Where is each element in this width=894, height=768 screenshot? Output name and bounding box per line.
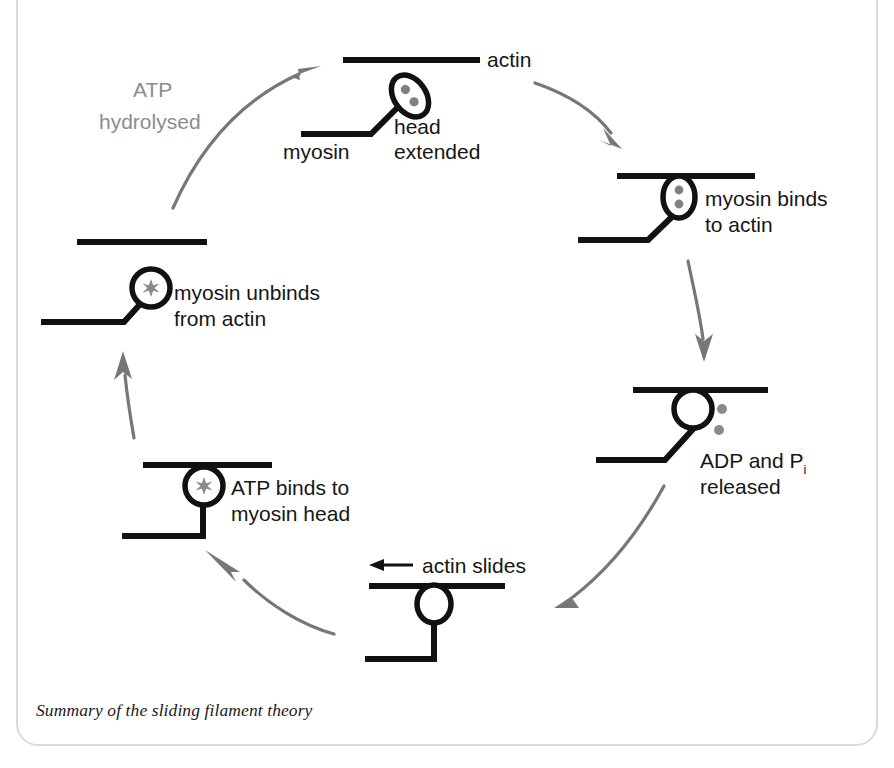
actin-slides-arrow (369, 559, 413, 571)
step-actin-slides: actin slides (365, 554, 526, 659)
cycle-arrow-5-shaft (125, 375, 134, 438)
label-actin-slides: actin slides (422, 554, 526, 577)
label-myosin: myosin (283, 140, 350, 163)
cycle-arrow-4-shaft (244, 580, 334, 634)
step-adp-pi-released: ADP and Pi released (596, 390, 807, 498)
released-adp-particle (717, 404, 727, 414)
label-head: head (394, 115, 441, 138)
cycle-arrow-slides-to-atp-binds (205, 550, 334, 634)
label-myosin-binds-line2: to actin (705, 213, 773, 236)
label-atp-binds-line1: ATP binds to (231, 476, 349, 499)
actin-slides-arrow-head (369, 559, 384, 571)
sliding-filament-cycle-diagram: actin myosin head extended myosin binds … (0, 0, 894, 768)
label-atp-hydrolysed-line2: hydrolysed (99, 110, 201, 133)
figure-caption: Summary of the sliding filament theory (36, 700, 312, 721)
cycle-arrow-2-shaft (688, 261, 703, 339)
myosin-tail-step5 (122, 503, 203, 536)
cycle-arrow-released-to-slides (554, 486, 664, 608)
step-head-extended: actin myosin head extended (283, 48, 531, 163)
label-extended: extended (394, 140, 480, 163)
cycle-arrow-3-shaft (573, 486, 664, 597)
nucleotide-dot-a-step2 (675, 186, 684, 195)
cycle-arrow-binds-to-released (688, 261, 713, 362)
myosin-tail-step6 (41, 301, 143, 322)
myosin-tail-step1 (301, 105, 400, 134)
cycle-arrow-4-head (205, 550, 240, 582)
figure-panel: actin myosin head extended myosin binds … (0, 0, 894, 768)
cycle-arrow-5-head (114, 351, 132, 380)
cycle-arrow-head-extended-to-binds (535, 83, 622, 149)
label-atp-hydrolysed-line1: ATP (133, 78, 172, 101)
label-myosin-unbinds-line2: from actin (174, 307, 266, 330)
cycle-arrow-unbinds-to-head-extended (173, 66, 321, 208)
label-adp-pi-line1: ADP and Pi (700, 449, 807, 477)
nucleotide-dot-b-step2 (675, 200, 684, 209)
step-myosin-binds: myosin binds to actin (578, 176, 828, 240)
myosin-head-step4 (417, 585, 451, 623)
myosin-tail-step2 (578, 212, 677, 240)
myosin-head-step3 (674, 390, 712, 428)
label-myosin-unbinds-line1: myosin unbinds (174, 281, 320, 304)
label-atp-binds-line2: myosin head (231, 502, 350, 525)
label-actin: actin (487, 48, 531, 71)
cycle-arrow-6-shaft (173, 74, 299, 208)
step-atp-binds: ATP binds to myosin head (122, 465, 350, 536)
myosin-tail-step3 (596, 428, 694, 460)
myosin-head-step2 (663, 176, 695, 218)
label-adp-pi-line2: released (700, 475, 781, 498)
released-phosphate-particle (714, 425, 724, 435)
cycle-arrow-atp-binds-to-unbinds (114, 351, 134, 438)
cycle-arrow-1-shaft (535, 83, 611, 133)
step-myosin-unbinds: myosin unbinds from actin (41, 242, 320, 330)
cycle-arrow-6-head (291, 66, 321, 80)
head-outline-step2 (663, 176, 695, 218)
myosin-tail-step4 (365, 622, 434, 659)
cycle-arrow-3-head (554, 590, 581, 608)
label-myosin-binds-line1: myosin binds (705, 187, 828, 210)
